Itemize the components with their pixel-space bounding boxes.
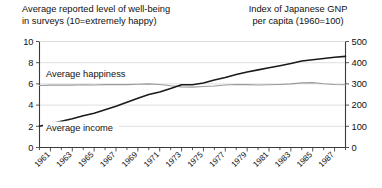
series-line-right — [40, 56, 346, 126]
x-tick-label: 1961 — [33, 150, 52, 169]
x-tick-label: 1963 — [55, 150, 74, 169]
right-tick-label: 200 — [352, 100, 368, 110]
x-tick-label: 1979 — [229, 150, 248, 169]
data-series — [40, 56, 346, 126]
right-tick-label: 400 — [352, 58, 368, 68]
x-tick-label: 1983 — [273, 150, 292, 169]
x-tick-label: 1971 — [142, 150, 161, 169]
left-tick-label: 6 — [28, 79, 33, 89]
left-tick-label: 2 — [28, 122, 33, 132]
x-tick-label: 1985 — [295, 150, 314, 169]
right-axis-ticks: 0100200300400500 — [346, 37, 368, 153]
gridlines — [40, 42, 346, 127]
left-tick-label: 4 — [28, 100, 33, 110]
left-tick-label: 8 — [28, 58, 33, 68]
x-tick-label: 1973 — [164, 150, 183, 169]
series-label: Average happiness — [46, 69, 126, 79]
left-tick-label: 10 — [23, 37, 33, 47]
chart-figure: Average reported level of well-being in … — [0, 0, 382, 188]
x-tick-label: 1969 — [120, 150, 139, 169]
series-label: Average income — [46, 123, 113, 133]
right-tick-label: 0 — [352, 143, 357, 153]
left-axis-ticks: 0246810 — [23, 37, 39, 153]
x-tick-label: 1967 — [98, 150, 117, 169]
x-axis-ticks: 1961196319651967196919711973197519771979… — [33, 148, 346, 170]
right-tick-label: 300 — [352, 79, 368, 89]
x-tick-label: 1981 — [251, 150, 270, 169]
x-tick-label: 1965 — [76, 150, 95, 169]
x-tick-label: 1977 — [208, 150, 227, 169]
x-tick-label: 1975 — [186, 150, 205, 169]
right-tick-label: 500 — [352, 37, 368, 47]
series-labels: Average happinessAverage income — [43, 68, 129, 134]
left-tick-label: 0 — [28, 143, 33, 153]
chart-plot: 0246810 0100200300400500 196119631965196… — [0, 0, 382, 188]
right-tick-label: 100 — [352, 122, 368, 132]
x-tick-label: 1987 — [317, 150, 336, 169]
